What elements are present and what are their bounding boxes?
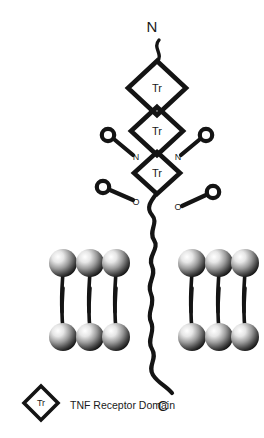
lipid-head [205, 249, 233, 277]
lipid-head [205, 323, 233, 351]
lipid-head [102, 249, 130, 277]
lipid-tail [89, 288, 90, 328]
legend-domain-symbol: Tr [37, 398, 45, 408]
lipid-head [49, 323, 77, 351]
lipid-tail [62, 288, 63, 328]
n-glycan-left-icon [102, 129, 114, 141]
n-terminus-label: N [147, 18, 158, 35]
legend-description: TNF Receptor Domain [70, 399, 175, 411]
n-glycan-right-icon [200, 129, 212, 141]
lipid-head [102, 323, 130, 351]
n-glycan-right-label: N [175, 152, 182, 162]
lipid-head [231, 323, 259, 351]
lipid-head [178, 249, 206, 277]
receptor-domain-1-label: Tr [152, 82, 162, 94]
receptor-domain-2-label: Tr [152, 125, 162, 137]
o-glycan-right-icon [207, 186, 219, 198]
lipid-tail [115, 288, 116, 328]
lipid-tail [218, 288, 219, 328]
lipid-head [231, 249, 259, 277]
lipid-head [49, 249, 77, 277]
lipid-head [178, 323, 206, 351]
lipid-head [76, 249, 104, 277]
canvas-background [0, 0, 264, 438]
n-glycan-left-label: N [133, 152, 140, 162]
o-glycan-right-label: O [174, 202, 181, 212]
lipid-tail [244, 288, 245, 328]
lipid-tail [191, 288, 192, 328]
lipid-head [76, 323, 104, 351]
tnf-receptor-diagram: N Tr Tr Tr N N O O [0, 0, 264, 438]
o-glycan-left-label: O [132, 197, 139, 207]
o-glycan-left-icon [97, 181, 109, 193]
receptor-domain-3-label: Tr [152, 167, 162, 179]
